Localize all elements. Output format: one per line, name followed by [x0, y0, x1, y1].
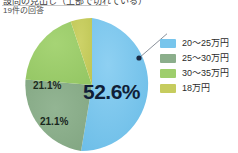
- legend: 20〜25万円 25〜30万円 30〜35万円 18万円: [160, 38, 229, 94]
- legend-label-30-35: 30〜35万円: [182, 68, 229, 79]
- legend-swatch-18: [160, 84, 176, 93]
- chart-area: 52.6% 21.1% 21.1% 20〜25万円 25〜30万円 30〜35万…: [0, 18, 238, 153]
- response-count-label: 19件の回答: [3, 6, 44, 16]
- legend-item-20-25[interactable]: 20〜25万円: [160, 38, 229, 49]
- legend-item-25-30[interactable]: 25〜30万円: [160, 53, 229, 64]
- legend-label-20-25: 20〜25万円: [182, 38, 229, 49]
- legend-item-18[interactable]: 18万円: [160, 83, 229, 94]
- legend-swatch-25-30: [160, 54, 176, 63]
- legend-swatch-20-25: [160, 39, 176, 48]
- legend-label-25-30: 25〜30万円: [182, 53, 229, 64]
- legend-item-30-35[interactable]: 30〜35万円: [160, 68, 229, 79]
- legend-swatch-30-35: [160, 69, 176, 78]
- pie-chart: [22, 18, 167, 153]
- pie-chart-screenshot: 設問の見出し（上部で切れている） 19件の回答: [0, 0, 238, 153]
- pie-slice-25-30[interactable]: [25, 80, 92, 152]
- legend-label-18: 18万円: [182, 83, 210, 94]
- leader-line-dot: [136, 55, 141, 60]
